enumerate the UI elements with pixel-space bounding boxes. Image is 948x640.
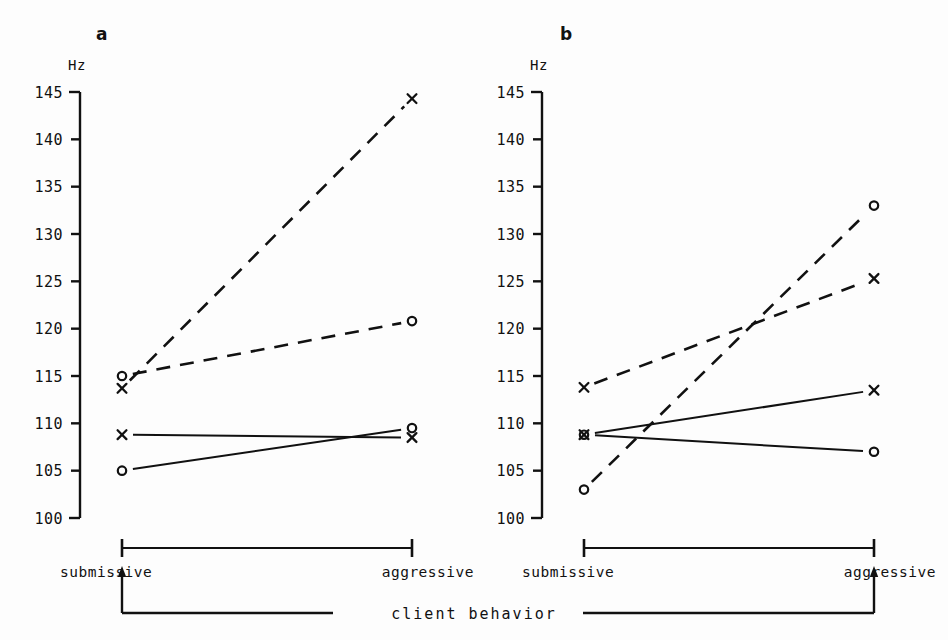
shared-axis-caption-text: client behavior xyxy=(391,605,556,623)
figure-root: a Hz 100105110115120125130135140145submi… xyxy=(0,0,948,640)
caption-arrow-right-head xyxy=(870,566,878,577)
shared-axis-caption-layer: client behavior xyxy=(0,0,948,640)
caption-arrow-left-head xyxy=(118,566,126,577)
